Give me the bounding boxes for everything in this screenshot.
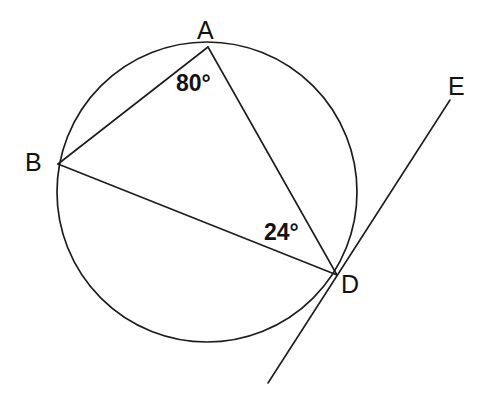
point-label-e: E <box>448 74 465 99</box>
point-label-a: A <box>197 18 214 43</box>
geometry-canvas <box>0 0 487 401</box>
angle-label-at-d: 24° <box>264 221 299 244</box>
angle-label-at-a: 80° <box>176 72 211 95</box>
chord-ab <box>58 47 208 164</box>
geometry-figure: A B D E 80° 24° <box>0 0 487 401</box>
point-label-b: B <box>25 150 42 175</box>
point-label-d: D <box>341 272 359 297</box>
